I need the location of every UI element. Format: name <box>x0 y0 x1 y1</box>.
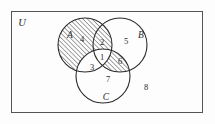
region-number-8: 8 <box>144 82 148 92</box>
region-number-6: 6 <box>118 56 122 66</box>
venn-diagram-canvas: U A B C 1 2 3 4 5 6 7 8 <box>0 0 215 124</box>
set-label-c: C <box>103 92 110 102</box>
set-label-b: B <box>138 30 144 40</box>
region-number-7: 7 <box>106 74 110 84</box>
region-number-3: 3 <box>90 62 94 72</box>
venn-diagram-figure: U A B C 1 2 3 4 5 6 7 8 <box>0 0 215 124</box>
region-number-1: 1 <box>100 52 104 62</box>
region-number-5: 5 <box>124 36 128 46</box>
region-number-2: 2 <box>100 37 104 47</box>
set-label-a: A <box>66 30 73 40</box>
